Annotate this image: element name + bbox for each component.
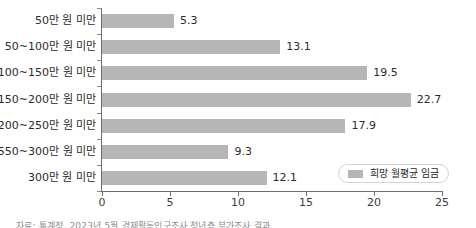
y-axis-category-label: 300만 원 미만 [28, 171, 96, 184]
legend-swatch-icon [348, 170, 363, 178]
x-axis-tick-label: 20 [367, 197, 381, 209]
bar-value-label: 19.5 [373, 66, 398, 80]
x-axis-line [101, 191, 443, 192]
bar-chart-figure: 50만 원 미만50~100만 원 미만100~150만 원 미만150~200… [0, 0, 476, 228]
source-caption: 자료: 통계청, 2023년 5월 경제활동인구조사 청년층 부가조사 결과 [16, 219, 270, 228]
y-axis-category-label: 150~200만 원 미만 [0, 93, 96, 106]
y-axis-category-label: 100~150만 원 미만 [0, 66, 96, 79]
bar [102, 171, 267, 185]
bar [102, 119, 345, 133]
y-axis-category-label: 550~300만 원 미만 [0, 145, 96, 158]
x-axis-tick-label: 15 [299, 197, 313, 209]
chart-legend[interactable]: 희망 월평균 임금 [338, 164, 449, 183]
bar-value-label: 22.7 [417, 93, 442, 107]
y-axis-category-label: 200~250만 원 미만 [0, 119, 96, 132]
y-axis-category-label: 50만 원 미만 [35, 14, 96, 27]
bar [102, 145, 228, 159]
bar-value-label: 9.3 [234, 145, 252, 159]
bar-value-label: 12.1 [273, 171, 298, 185]
bar [102, 66, 367, 80]
x-axis-tick-label: 25 [435, 197, 449, 209]
bar [102, 14, 174, 28]
x-axis-tick-label: 0 [99, 197, 106, 209]
legend-label: 희망 월평균 임금 [370, 168, 439, 179]
bar-value-label: 5.3 [180, 14, 198, 28]
y-axis-category-label: 50~100만 원 미만 [5, 40, 96, 53]
bar-value-label: 13.1 [286, 40, 311, 54]
x-axis-tick-label: 10 [231, 197, 245, 209]
x-axis-tick-label: 5 [167, 197, 174, 209]
bar [102, 93, 411, 107]
bar [102, 40, 280, 54]
bar-value-label: 17.9 [351, 119, 376, 133]
